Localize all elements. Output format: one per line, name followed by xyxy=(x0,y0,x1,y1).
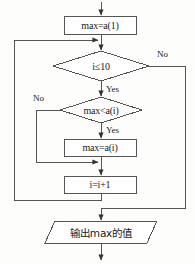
node-init-shape xyxy=(64,16,136,34)
node-output-shape xyxy=(45,221,157,243)
node-incr-shape xyxy=(64,176,136,193)
edge-label-cmp-no: No xyxy=(33,93,44,103)
node-cond-loop-shape xyxy=(53,51,149,81)
edge-label-cmp-yes: Yes xyxy=(106,125,119,135)
flowchart-canvas xyxy=(0,0,195,264)
node-cond-cmp-shape xyxy=(60,97,142,123)
edge-label-loop-no: No xyxy=(157,49,168,59)
node-assign-shape xyxy=(64,139,136,156)
flowchart-diagram: max=a(1) i≤10 max<a(i) max=a(i) i=i+1 输出… xyxy=(0,0,195,264)
edge-label-loop-yes: Yes xyxy=(106,84,119,94)
